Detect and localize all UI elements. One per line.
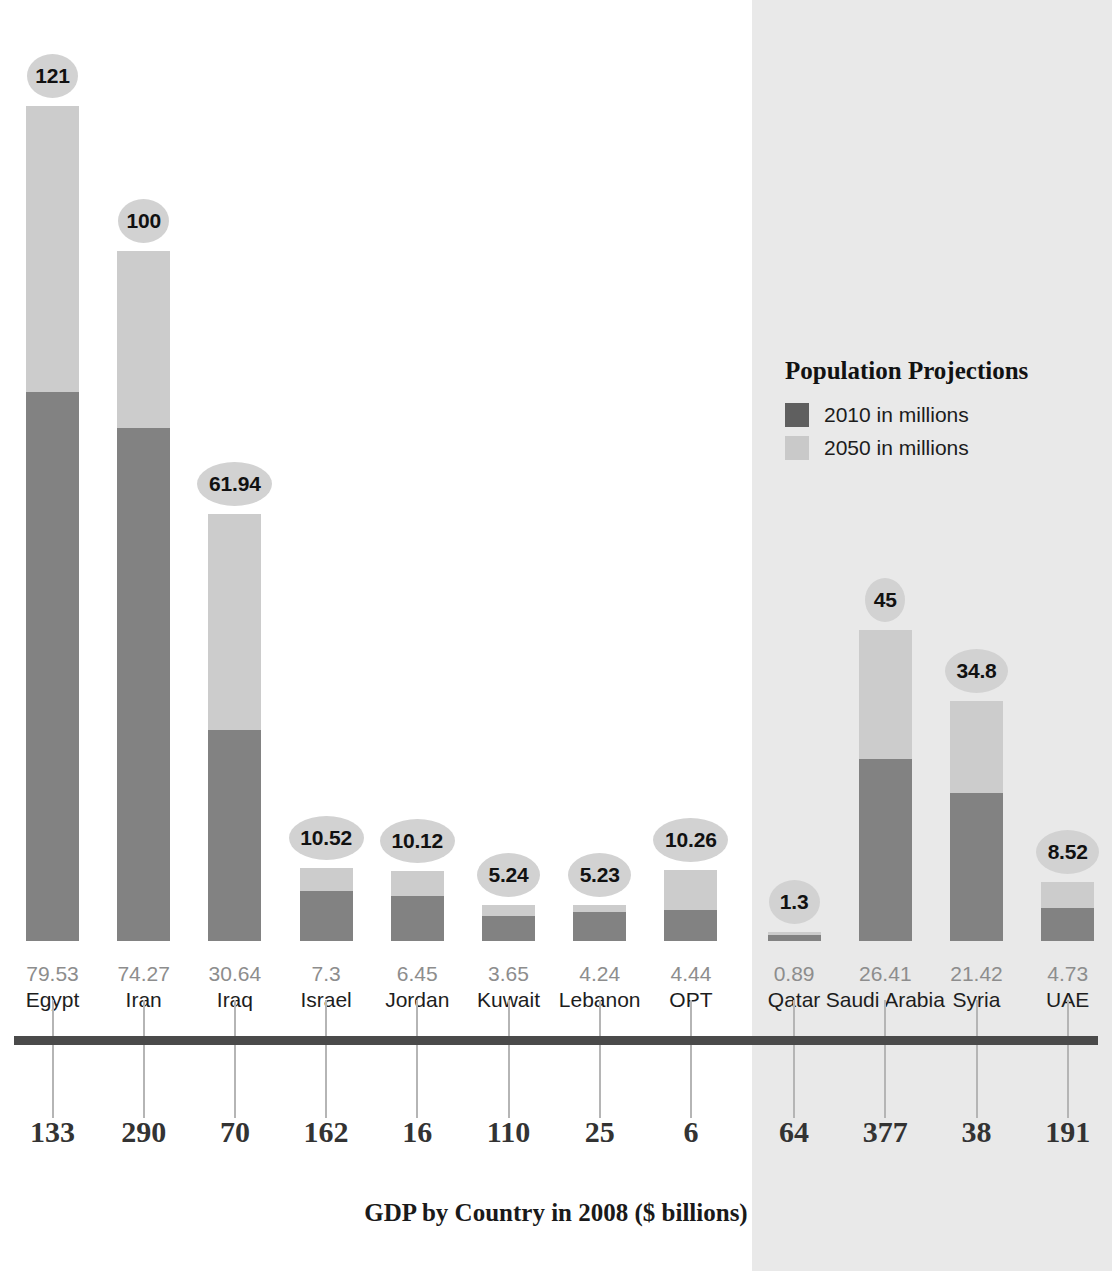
bar-segment-2050 xyxy=(208,514,261,730)
axis-tick-jordan xyxy=(416,1000,418,1118)
chart-legend: Population Projections 2010 in millions … xyxy=(785,357,1085,469)
bar-segment-2050 xyxy=(482,905,535,916)
bar-segment-2010 xyxy=(482,916,535,941)
value-bubble-jordan: 10.12 xyxy=(380,819,455,863)
legend-item-2010: 2010 in millions xyxy=(785,403,1085,427)
bar-syria xyxy=(950,701,1003,941)
value-bubble-egypt: 121 xyxy=(27,54,78,98)
bar-segment-2050 xyxy=(26,106,79,392)
bar-segment-2010 xyxy=(768,935,821,941)
value-bubble-syria: 34.8 xyxy=(945,649,1008,693)
bar-israel xyxy=(300,868,353,941)
bar-segment-2010 xyxy=(1041,908,1094,941)
bar-segment-2010 xyxy=(117,428,170,941)
bar-segment-2010 xyxy=(26,392,79,941)
bar-uae xyxy=(1041,882,1094,941)
bar-segment-2050 xyxy=(117,251,170,429)
bar-segment-2050 xyxy=(391,871,444,896)
bar-segment-2050 xyxy=(859,630,912,758)
axis-tick-saudi-arabia xyxy=(884,1000,886,1118)
bar-iran xyxy=(117,251,170,941)
bar-saudi-arabia xyxy=(859,630,912,941)
axis-tick-iraq xyxy=(234,1000,236,1118)
axis-tick-lebanon xyxy=(599,1000,601,1118)
bar-segment-2050 xyxy=(950,701,1003,793)
bar-segment-2010 xyxy=(573,912,626,941)
pop2010-value-uae: 4.73 xyxy=(998,962,1112,986)
value-bubble-iraq: 61.94 xyxy=(197,462,272,506)
value-bubble-uae: 8.52 xyxy=(1036,830,1099,874)
bar-segment-2050 xyxy=(1041,882,1094,908)
bar-segment-2010 xyxy=(859,759,912,941)
bar-segment-2010 xyxy=(208,730,261,941)
value-bubble-saudi-arabia: 45 xyxy=(865,578,905,622)
bar-opt xyxy=(664,870,717,941)
axis-tick-israel xyxy=(325,1000,327,1118)
axis-tick-opt xyxy=(690,1000,692,1118)
axis-tick-uae xyxy=(1067,1000,1069,1118)
bar-segment-2010 xyxy=(391,896,444,941)
bar-segment-2050 xyxy=(664,870,717,910)
axis-tick-iran xyxy=(143,1000,145,1118)
bar-jordan xyxy=(391,871,444,941)
axis-tick-syria xyxy=(976,1000,978,1118)
bar-segment-2010 xyxy=(300,891,353,941)
legend-swatch-2050-icon xyxy=(785,436,809,460)
gdp-value-uae: 191 xyxy=(998,1115,1112,1149)
bar-segment-2010 xyxy=(950,793,1003,941)
legend-swatch-2010-icon xyxy=(785,403,809,427)
bar-segment-2010 xyxy=(664,910,717,941)
bar-qatar xyxy=(768,932,821,941)
legend-title: Population Projections xyxy=(785,357,1085,385)
bar-iraq xyxy=(208,514,261,941)
axis-baseline xyxy=(14,1036,1098,1045)
axis-tick-qatar xyxy=(793,1000,795,1118)
value-bubble-opt: 10.26 xyxy=(653,818,728,862)
legend-label-2010: 2010 in millions xyxy=(824,403,969,427)
bar-segment-2050 xyxy=(573,905,626,912)
country-label-uae: UAE xyxy=(988,988,1112,1012)
chart-title: GDP by Country in 2008 ($ billions) xyxy=(0,1199,1112,1227)
bar-chart-plot-area: 12179.53Egypt13310074.27Iran29061.9430.6… xyxy=(0,0,1112,1271)
value-bubble-qatar: 1.3 xyxy=(769,880,820,924)
legend-item-2050: 2050 in millions xyxy=(785,436,1085,460)
legend-label-2050: 2050 in millions xyxy=(824,436,969,460)
value-bubble-iran: 100 xyxy=(118,199,169,243)
bar-lebanon xyxy=(573,905,626,941)
bar-kuwait xyxy=(482,905,535,941)
axis-tick-egypt xyxy=(52,1000,54,1118)
value-bubble-lebanon: 5.23 xyxy=(568,853,631,897)
value-bubble-israel: 10.52 xyxy=(289,816,364,860)
infographic-canvas: 12179.53Egypt13310074.27Iran29061.9430.6… xyxy=(0,0,1112,1271)
bar-segment-2050 xyxy=(300,868,353,890)
axis-tick-kuwait xyxy=(508,1000,510,1118)
value-bubble-kuwait: 5.24 xyxy=(477,853,540,897)
bar-egypt xyxy=(26,106,79,941)
